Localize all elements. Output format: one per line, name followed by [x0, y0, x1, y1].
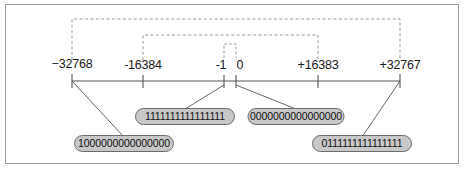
- binary-pill-min-negative: 1000000000000000: [74, 135, 174, 152]
- leader-zero: [236, 85, 296, 109]
- inner-range-bracket: [224, 44, 236, 58]
- axis-label-pos16383: +16383: [298, 58, 339, 72]
- binary-pill-max-positive: 0111111111111111: [312, 135, 412, 152]
- axis-label-pos32767: +32767: [380, 58, 421, 72]
- axis-label-neg1: -1: [216, 58, 227, 72]
- middle-range-bracket: [143, 35, 318, 60]
- leader-max-positive: [362, 81, 400, 137]
- binary-pill-negative-one: 1111111111111111: [135, 108, 235, 125]
- axis-label-neg16384: -16384: [124, 58, 162, 72]
- axis-label-zero: 0: [237, 58, 244, 72]
- axis-label-neg32768: −32768: [52, 57, 93, 71]
- number-line-figure: −32768 -16384 -1 0 +16383 +32767 1111111…: [0, 0, 465, 171]
- leader-min-negative: [72, 81, 124, 137]
- binary-pill-zero: 0000000000000000: [248, 108, 345, 125]
- leader-negative-one: [185, 85, 224, 109]
- leader-lines: [72, 81, 400, 137]
